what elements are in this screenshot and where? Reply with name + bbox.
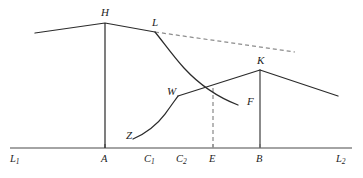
axis-label-a: A	[101, 154, 107, 165]
diagram-canvas	[0, 0, 363, 178]
point-label-h: H	[101, 7, 109, 18]
point-label-f: F	[247, 96, 254, 107]
axis-label-e: E	[209, 154, 215, 165]
axis-label-c2-text: C	[176, 153, 183, 164]
axis-label-c1-text: C	[144, 153, 151, 164]
point-label-k: K	[257, 55, 264, 66]
axis-label-b-text: B	[256, 153, 262, 164]
point-label-w: W	[167, 86, 176, 97]
curve-z-to-w	[133, 96, 178, 139]
axis-label-c2: C2	[176, 154, 187, 165]
dashed-extension-from-l	[155, 32, 295, 52]
axis-label-l1-text: L	[10, 153, 16, 164]
economics-diagram: H L K W F Z L1 A C1 C2 E B L2	[0, 0, 363, 178]
axis-label-l2-text: L	[336, 153, 342, 164]
point-label-z: Z	[126, 130, 132, 141]
axis-label-c1: C1	[144, 154, 155, 165]
point-label-l: L	[152, 17, 158, 28]
axis-label-l2-sub: 2	[342, 157, 346, 166]
axis-label-a-text: A	[101, 153, 107, 164]
axis-label-l1: L1	[10, 154, 20, 165]
axis-label-e-text: E	[209, 153, 215, 164]
axis-label-c1-sub: 1	[151, 157, 155, 166]
axis-label-l2: L2	[336, 154, 346, 165]
axis-label-l1-sub: 1	[16, 157, 20, 166]
curve-h-envelope	[35, 23, 155, 33]
axis-label-b: B	[256, 154, 262, 165]
line-k-descending	[260, 70, 338, 96]
axis-label-c2-sub: 2	[183, 157, 187, 166]
